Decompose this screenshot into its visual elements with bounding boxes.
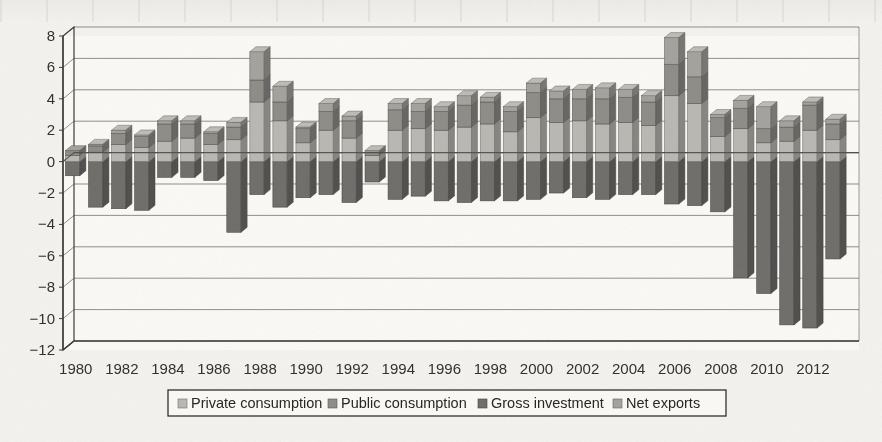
x-axis-tick-label: 1996 <box>428 360 461 377</box>
x-axis-tick-label: 1990 <box>289 360 322 377</box>
x-axis-tick-label: 1980 <box>59 360 92 377</box>
y-axis-tick-label: −2 <box>38 184 55 201</box>
x-axis-tick-label: 2002 <box>566 360 599 377</box>
legend-item: Private consumption <box>178 395 322 411</box>
bar-segment <box>250 157 270 195</box>
bar-segment <box>112 157 132 209</box>
x-axis-tick-label: 2006 <box>658 360 691 377</box>
bar-segment <box>89 157 109 207</box>
bar-segment <box>250 47 270 80</box>
legend-label: Private consumption <box>191 395 322 411</box>
x-axis-tick-label: 2000 <box>520 360 553 377</box>
bar-segment <box>250 97 270 162</box>
bar-segment <box>618 157 638 195</box>
x-axis-tick-label: 1988 <box>243 360 276 377</box>
bar-segment <box>803 157 823 328</box>
chart-figure: 86420−2−4−6−8−10−12 19801982198419861988… <box>0 0 882 442</box>
bar-segment <box>457 157 477 203</box>
x-axis-tick-label: 1984 <box>151 360 184 377</box>
bar-segment <box>595 83 615 99</box>
bar-segment <box>434 157 454 201</box>
bar-segment <box>711 157 731 212</box>
bar-segment <box>688 157 708 206</box>
bar-segment <box>227 157 247 233</box>
x-axis-tick-label: 2010 <box>750 360 783 377</box>
bar-segment <box>642 157 662 195</box>
bar-segment <box>526 78 546 92</box>
bar-segment <box>826 157 846 259</box>
bar-segment <box>572 116 592 162</box>
bar-segment <box>273 116 293 162</box>
y-axis-tick-label: −4 <box>38 215 55 232</box>
y-axis-tick-label: −12 <box>30 341 55 358</box>
bar-segment <box>734 124 754 162</box>
bar-segment <box>457 91 477 105</box>
bar-segment <box>457 122 477 161</box>
chart-canvas: 86420−2−4−6−8−10−12 19801982198419861988… <box>0 0 882 442</box>
bar-segment <box>572 84 592 98</box>
x-axis-tick-label: 2004 <box>612 360 645 377</box>
y-axis-tick-label: −8 <box>38 278 55 295</box>
bar-segment <box>411 157 431 196</box>
bar-segment <box>526 157 546 200</box>
chart-legend: Private consumptionPublic consumptionGro… <box>168 390 726 416</box>
legend-item: Net exports <box>613 395 700 411</box>
y-axis-tick-label: 6 <box>47 58 55 75</box>
bar-segment <box>688 47 708 77</box>
legend-swatch <box>178 399 187 408</box>
legend-label: Public consumption <box>341 395 467 411</box>
legend-label: Net exports <box>626 395 700 411</box>
y-axis-tick-label: −10 <box>30 310 55 327</box>
bar-segment <box>803 125 823 161</box>
bar-segment <box>411 124 431 162</box>
bar-segment <box>572 157 592 198</box>
y-axis-tick-label: 0 <box>47 153 55 170</box>
x-axis-tick-label: 2012 <box>796 360 829 377</box>
x-axis-tick-label: 2008 <box>704 360 737 377</box>
bar-segment <box>642 121 662 162</box>
y-axis-tick-label: −6 <box>38 247 55 264</box>
bar-segment <box>135 157 155 211</box>
bar-segment <box>319 157 339 195</box>
legend-swatch <box>478 399 487 408</box>
bar-segment <box>734 157 754 278</box>
bar-segment <box>665 33 685 65</box>
bar-segment <box>296 157 316 198</box>
y-axis-tick-label: 8 <box>47 27 55 44</box>
bar-segment <box>618 117 638 161</box>
y-axis-tick-label: 2 <box>47 121 55 138</box>
bar-segment <box>388 125 408 161</box>
bar-segment <box>319 125 339 161</box>
bar-segment <box>780 157 800 325</box>
bar-segment <box>595 119 615 162</box>
bar-segment <box>526 113 546 162</box>
x-axis: 1980198219841986198819901992199419961998… <box>59 360 830 377</box>
bar-segment <box>480 119 500 162</box>
legend-swatch <box>328 399 337 408</box>
bar-segment <box>273 157 293 207</box>
bar-segment <box>388 157 408 200</box>
y-axis-tick-label: 4 <box>47 90 55 107</box>
legend-label: Gross investment <box>491 395 604 411</box>
x-axis-tick-label: 1992 <box>336 360 369 377</box>
legend-item: Public consumption <box>328 395 467 411</box>
bar-segment <box>757 102 777 129</box>
bar-segment <box>434 125 454 161</box>
bar-segment <box>665 157 685 204</box>
x-axis-tick-label: 1998 <box>474 360 507 377</box>
bar-segment <box>595 157 615 200</box>
bar-segment <box>273 81 293 102</box>
x-axis-tick-label: 1982 <box>105 360 138 377</box>
bar-segment <box>549 157 569 193</box>
bar-segment <box>503 157 523 201</box>
legend-swatch <box>613 399 622 408</box>
bar-segment <box>342 157 362 203</box>
bar-segment <box>480 157 500 201</box>
bar-segment <box>665 59 685 95</box>
x-axis-tick-label: 1994 <box>382 360 415 377</box>
x-axis-tick-label: 1986 <box>197 360 230 377</box>
bar-segment <box>757 157 777 294</box>
bar-segment <box>665 91 685 162</box>
y-axis: 86420−2−4−6−8−10−12 <box>30 27 63 358</box>
legend-item: Gross investment <box>478 395 604 411</box>
